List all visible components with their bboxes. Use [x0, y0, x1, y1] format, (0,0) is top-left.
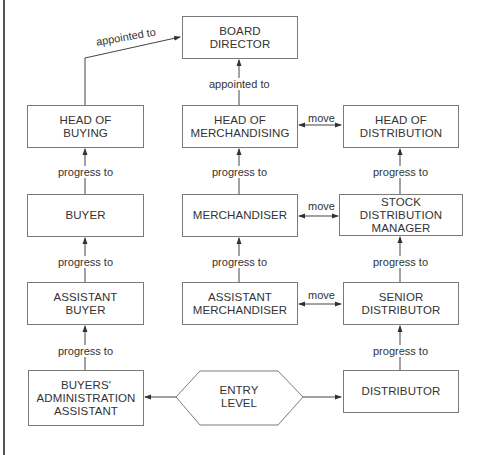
edge-label-progress-asst-merch: progress to	[211, 256, 268, 268]
edge-label-progress-asst-buyer: progress to	[57, 256, 114, 268]
node-label: HEAD OF BUYING	[60, 114, 112, 140]
node-label: ASSISTANT BUYER	[54, 291, 118, 317]
node-head-of-distribution: HEAD OF DISTRIBUTION	[343, 105, 459, 148]
node-head-of-buying: HEAD OF BUYING	[27, 105, 144, 148]
node-buyers-admin-assistant: BUYERS' ADMINISTRATION ASSISTANT	[28, 370, 144, 426]
node-assistant-buyer: ASSISTANT BUYER	[27, 282, 144, 325]
node-board-director: BOARD DIRECTOR	[182, 16, 298, 59]
node-label: BUYERS' ADMINISTRATION ASSISTANT	[37, 379, 136, 418]
edge-label-progress-merch: progress to	[211, 166, 268, 178]
node-buyer: BUYER	[27, 194, 144, 237]
node-head-of-merchandising: HEAD OF MERCHANDISING	[182, 105, 298, 148]
node-merchandiser: MERCHANDISER	[182, 194, 298, 237]
node-assistant-merchandiser: ASSISTANT MERCHANDISER	[182, 282, 298, 325]
node-senior-distributor: SENIOR DISTRIBUTOR	[343, 282, 459, 325]
node-label: ASSISTANT MERCHANDISER	[193, 291, 288, 317]
node-stock-distribution-manager: STOCK DISTRIBUTION MANAGER	[339, 194, 463, 236]
edge-label-move-mid: move	[307, 200, 336, 212]
node-entry-level: ENTRY LEVEL	[200, 384, 278, 410]
edge-label-progress-sdm: progress to	[372, 166, 429, 178]
node-label: SENIOR DISTRIBUTOR	[362, 291, 441, 317]
node-label: HEAD OF MERCHANDISING	[190, 114, 289, 140]
node-label: MERCHANDISER	[193, 209, 288, 222]
node-label: HEAD OF DISTRIBUTION	[360, 114, 442, 140]
edge-label-merch-appointed: appointed to	[208, 78, 271, 90]
node-distributor: DISTRIBUTOR	[343, 370, 459, 413]
node-label: BUYER	[65, 209, 105, 222]
edge-label-progress-distributor: progress to	[372, 345, 429, 357]
node-label: STOCK DISTRIBUTION MANAGER	[340, 196, 462, 235]
node-label: BOARD DIRECTOR	[210, 25, 271, 51]
edge-label-progress-senior: progress to	[372, 256, 429, 268]
edge-label-progress-admin: progress to	[57, 345, 114, 357]
node-label: DISTRIBUTOR	[362, 385, 441, 398]
edge-label-move-head: move	[307, 112, 336, 124]
edge-label-progress-buyer: progress to	[57, 166, 114, 178]
edge-label-move-low: move	[307, 289, 336, 301]
